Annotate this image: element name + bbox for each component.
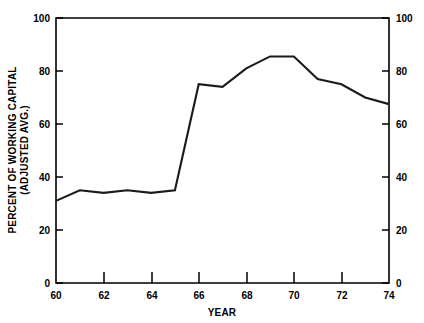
x-tick-label-72: 72 [336,290,348,301]
right-tick-label-20: 20 [396,225,408,236]
x-tick-label-68: 68 [241,290,253,301]
right-tick-label-80: 80 [396,66,408,77]
y-axis-title-line2: (ADJUSTED AVG.) [19,105,30,195]
right-tick-label-40: 40 [396,172,408,183]
x-axis-title: YEAR [208,307,237,318]
x-tick-label-64: 64 [146,290,158,301]
x-tick-label-74: 74 [383,290,395,301]
y-tick-label-80: 80 [39,66,51,77]
y-tick-label-20: 20 [39,225,51,236]
y-tick-label-100: 100 [33,13,50,24]
x-tick-label-70: 70 [288,290,300,301]
y-tick-label-60: 60 [39,119,51,130]
y-tick-label-40: 40 [39,172,51,183]
x-tick-label-60: 60 [50,290,62,301]
x-tick-label-62: 62 [98,290,110,301]
y-axis-title-line1: PERCENT OF WORKING CAPITAL [7,66,18,233]
right-tick-label-0: 0 [396,278,402,289]
right-tick-label-100: 100 [396,13,413,24]
y-tick-label-0: 0 [44,278,50,289]
chart-background [0,0,424,323]
line-chart-figure: 0 20 40 60 80 100 0 20 40 60 80 100 60 6… [0,0,424,323]
x-tick-label-66: 66 [193,290,205,301]
right-tick-label-60: 60 [396,119,408,130]
